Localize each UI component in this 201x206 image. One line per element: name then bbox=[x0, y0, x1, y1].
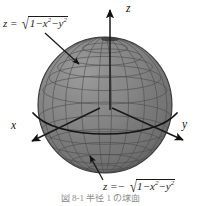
lower-eq-minus-2: − bbox=[159, 180, 166, 192]
lower-eq-one: 1 bbox=[137, 180, 143, 192]
sphere-figure: z = √1−x2−y2 z =− √1−x2−y2 z x y 図 8-1 半… bbox=[0, 0, 201, 206]
lower-eq-x-exp: 2 bbox=[155, 179, 159, 186]
radical-sign-icon: √ bbox=[130, 181, 137, 192]
upper-eq-equals: = bbox=[10, 17, 17, 29]
lower-eq-minus-1: − bbox=[143, 180, 150, 192]
upper-eq-minus-2: − bbox=[51, 17, 58, 29]
upper-hemisphere-equation: z = √1−x2−y2 bbox=[3, 16, 68, 30]
upper-eq-minus-1: − bbox=[35, 17, 42, 29]
lower-eq-equals: = bbox=[110, 180, 117, 192]
lower-eq-radicand: 1−x2−y2 bbox=[136, 179, 176, 192]
lower-hemisphere-equation: z =− √1−x2−y2 bbox=[103, 179, 175, 193]
lower-eq-radical: √1−x2−y2 bbox=[128, 179, 176, 193]
upper-eq-radical: √1−x2−y2 bbox=[20, 16, 68, 30]
figure-canvas bbox=[0, 0, 201, 206]
sphere-body bbox=[33, 36, 177, 173]
lower-eq-lhs: z bbox=[103, 180, 107, 192]
x-axis-label: x bbox=[11, 120, 16, 132]
figure-caption: 図 8-1 半径 1 の球面 bbox=[0, 194, 201, 204]
z-axis-label: z bbox=[126, 3, 130, 15]
upper-eq-lhs: z bbox=[3, 17, 7, 29]
radical-sign-icon: √ bbox=[22, 18, 29, 29]
lower-eq-y-exp: 2 bbox=[171, 179, 175, 186]
y-axis-label: y bbox=[182, 119, 187, 131]
upper-eq-y-exp: 2 bbox=[64, 16, 68, 23]
lower-eq-sign: − bbox=[118, 180, 125, 192]
upper-eq-radicand: 1−x2−y2 bbox=[28, 16, 68, 29]
